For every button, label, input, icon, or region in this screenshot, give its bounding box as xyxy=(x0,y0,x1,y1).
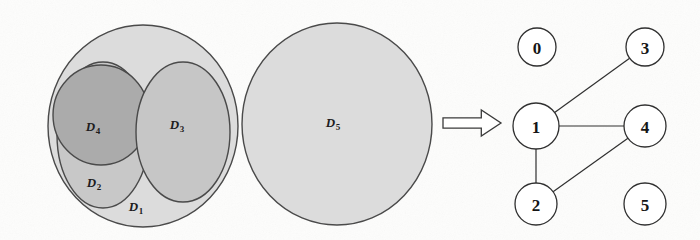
region-D4 xyxy=(53,65,149,165)
graph-node-5[interactable]: 5 xyxy=(624,183,666,225)
graph-node-4-label: 4 xyxy=(641,118,650,137)
graph-node-2-label: 2 xyxy=(532,196,541,215)
graph-node-3-label: 3 xyxy=(641,39,650,58)
graph-node-4[interactable]: 4 xyxy=(624,105,666,147)
graph-node-1[interactable]: 1 xyxy=(513,103,559,149)
region-D4-shape xyxy=(53,65,149,165)
region-D5: D5 xyxy=(242,23,432,225)
region-D3: D3 xyxy=(136,62,230,202)
figure-canvas: D1 D3 D4 D2 D5 xyxy=(0,0,700,240)
graph-node-0[interactable]: 0 xyxy=(518,28,556,66)
graph-node-2[interactable]: 2 xyxy=(515,183,557,225)
graph-node-1-label: 1 xyxy=(532,118,541,137)
graph-node-5-label: 5 xyxy=(641,196,650,215)
figure-svg: D1 D3 D4 D2 D5 xyxy=(0,0,700,240)
graph-node-0-label: 0 xyxy=(533,39,542,58)
graph-node-3[interactable]: 3 xyxy=(626,28,664,66)
